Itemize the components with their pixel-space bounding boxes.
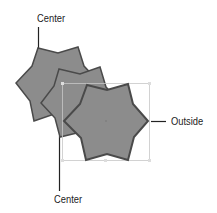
selection-handle-bm[interactable] xyxy=(104,159,107,162)
label-top-center: Center xyxy=(37,12,65,24)
selection-handle-bl[interactable] xyxy=(61,159,64,162)
center-point xyxy=(105,120,107,122)
stroke-alignment-diagram xyxy=(0,0,217,213)
selection-handle-tr[interactable] xyxy=(148,82,151,85)
selection-handle-br[interactable] xyxy=(148,159,151,162)
selection-handle-tl[interactable] xyxy=(61,82,64,85)
label-bottom-center: Center xyxy=(54,193,82,205)
label-right-outside: Outside xyxy=(171,115,203,127)
